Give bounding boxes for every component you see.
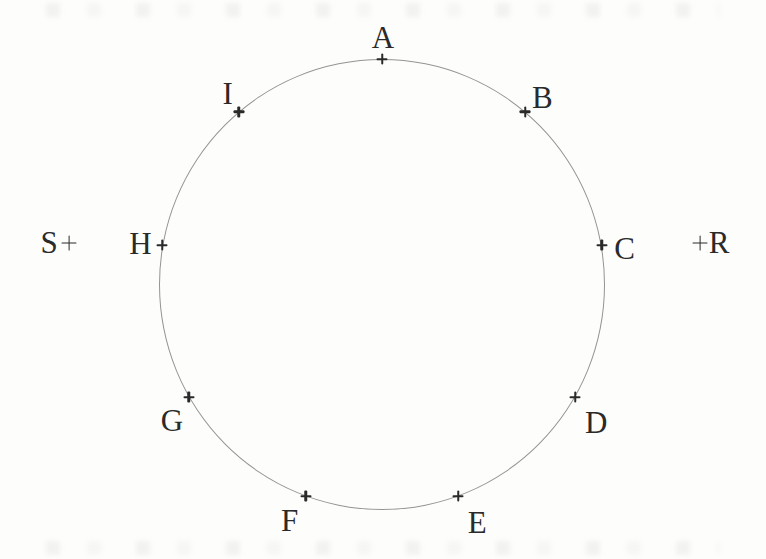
point-marker-b-plus-icon — [520, 106, 531, 117]
point-label-r: R — [709, 227, 730, 258]
point-label-s: S — [40, 227, 57, 258]
point-marker-h-plus-icon — [157, 240, 168, 251]
point-marker-i-plus-icon — [233, 106, 244, 117]
point-marker-a-plus-icon — [377, 54, 388, 65]
point-label-g: G — [161, 405, 183, 436]
point-label-e: E — [468, 507, 487, 538]
scan-noise-top — [46, 3, 720, 17]
point-marker-e-plus-icon — [453, 491, 464, 502]
point-label-i: I — [222, 77, 232, 108]
point-marker-d-plus-icon — [570, 392, 581, 403]
point-label-a: A — [372, 22, 394, 53]
geometry-diagram: ABCDEFGHISR — [0, 0, 766, 559]
point-label-c: C — [614, 233, 635, 264]
point-marker-r-plus-icon — [693, 236, 708, 251]
point-marker-f-plus-icon — [300, 491, 311, 502]
point-label-d: D — [585, 407, 607, 438]
circle-outline — [159, 59, 605, 510]
point-marker-g-plus-icon — [183, 392, 194, 403]
point-marker-s-plus-icon — [62, 236, 77, 251]
point-label-b: B — [532, 81, 553, 112]
scan-noise-bottom — [46, 541, 720, 555]
point-label-h: H — [129, 228, 151, 259]
point-label-f: F — [281, 505, 298, 536]
point-marker-c-plus-icon — [596, 240, 607, 251]
